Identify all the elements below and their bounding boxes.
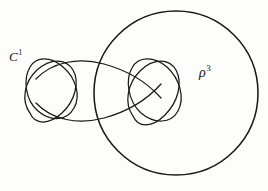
figure-drawing <box>0 0 268 191</box>
label-region-base: ρ <box>199 65 206 80</box>
label-curve-superscript: 1 <box>18 48 22 57</box>
lower-connecting-arc <box>36 84 161 121</box>
large-circle <box>94 11 258 175</box>
label-curve-c1: C1 <box>9 48 22 64</box>
label-region-rho3: ρ3 <box>199 64 211 80</box>
knot-curve <box>25 59 181 125</box>
label-curve-base: C <box>9 49 18 64</box>
figure-container: C1 ρ3 <box>0 0 268 191</box>
label-region-superscript: 3 <box>206 63 211 73</box>
